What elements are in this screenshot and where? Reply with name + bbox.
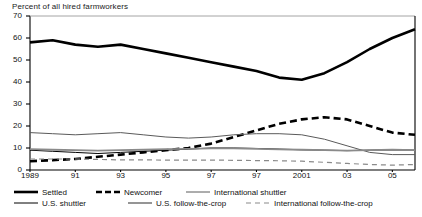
y-tick-label: 10 — [0, 144, 22, 152]
y-tick-marks — [26, 16, 30, 170]
x-tick-label: 91 — [55, 172, 95, 180]
legend-swatch-icon — [128, 198, 152, 208]
series-line — [30, 159, 415, 165]
x-tick-label: 97 — [191, 172, 231, 180]
y-tick-label: 50 — [0, 56, 22, 64]
x-tick-label: 03 — [327, 172, 367, 180]
chart-container: Percent of all hired farmworkers 7060504… — [0, 0, 422, 217]
y-tick-label: 40 — [0, 78, 22, 86]
legend-item[interactable]: U.S. shuttler — [14, 197, 86, 209]
legend-swatch-icon — [246, 198, 270, 208]
legend-swatch-icon — [14, 187, 38, 197]
series-line — [30, 117, 415, 161]
x-tick-label: 95 — [146, 172, 186, 180]
y-tick-label: 30 — [0, 100, 22, 108]
y-tick-label: 70 — [0, 12, 22, 20]
x-tick-label: 1989 — [10, 172, 50, 180]
legend-label: U.S. shuttler — [42, 199, 86, 208]
legend-label: International shuttler — [214, 188, 287, 197]
x-tick-label: 2001 — [282, 172, 322, 180]
data-series-group — [30, 29, 415, 165]
plot-area: 706050403020100 — [0, 12, 422, 172]
x-tick-label: 97 — [236, 172, 276, 180]
legend-swatch-icon — [96, 187, 120, 197]
x-tick-label: 05 — [372, 172, 412, 180]
legend-item[interactable]: International follow-the-crop — [246, 197, 373, 209]
legend-swatch-icon — [14, 198, 38, 208]
y-tick-label: 20 — [0, 122, 22, 130]
legend-label: Newcomer — [124, 188, 162, 197]
legend-label: U.S. follow-the-crop — [156, 199, 226, 208]
chart-title: Percent of all hired farmworkers — [12, 2, 128, 12]
chart-legend: SettledNewcomerInternational shuttler U.… — [0, 186, 422, 214]
legend-label: Settled — [42, 188, 67, 197]
legend-row-secondary: U.S. shuttlerU.S. follow-the-cropInterna… — [0, 197, 422, 209]
y-tick-label: 60 — [0, 34, 22, 42]
legend-swatch-icon — [186, 187, 210, 197]
plot-svg — [0, 12, 422, 172]
x-tick-label: 93 — [101, 172, 141, 180]
axes-frame — [30, 16, 415, 170]
legend-item[interactable]: U.S. follow-the-crop — [128, 197, 226, 209]
series-line — [30, 29, 415, 80]
legend-label: International follow-the-crop — [274, 199, 373, 208]
x-axis-tick-labels: 1989919395979720010305 — [0, 170, 422, 184]
